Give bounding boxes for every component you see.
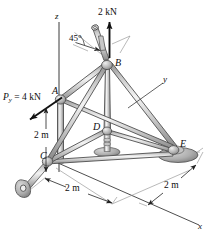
axis-label-x: x	[198, 222, 202, 231]
space-truss-figure: z y x A B C D E 2 kN Py = 4 kN 45° 2 m 2…	[0, 0, 213, 236]
joint-e-hub	[168, 146, 179, 155]
axis-x-line	[58, 163, 199, 225]
dim-label-vertical-2m: 2 m	[34, 131, 49, 141]
joint-label-e: E	[180, 139, 186, 149]
support-collar-b	[91, 24, 109, 61]
force-label-2kn: 2 kN	[98, 8, 117, 18]
joint-label-c: C	[40, 151, 47, 161]
joint-d-hub	[102, 127, 111, 135]
axis-label-z: z	[55, 12, 59, 21]
joint-label-a: A	[52, 86, 58, 96]
joint-b-hub	[102, 60, 113, 69]
dim-label-horizontal-2m: 2 m	[65, 184, 80, 194]
joint-label-d: D	[93, 122, 100, 132]
dim-label-right-2m: 2 m	[164, 181, 179, 191]
member-a-b	[59, 64, 107, 102]
force-py-equals: =	[12, 92, 22, 102]
support-pin-lower-left	[15, 180, 30, 198]
force-label-py: Py = 4 kN	[3, 93, 41, 104]
angle-label-45: 45°	[69, 34, 82, 43]
force-py-value: 4 kN	[22, 92, 41, 102]
truss-drawing	[0, 0, 213, 236]
axis-label-y: y	[163, 75, 167, 84]
joint-label-b: B	[115, 58, 121, 68]
